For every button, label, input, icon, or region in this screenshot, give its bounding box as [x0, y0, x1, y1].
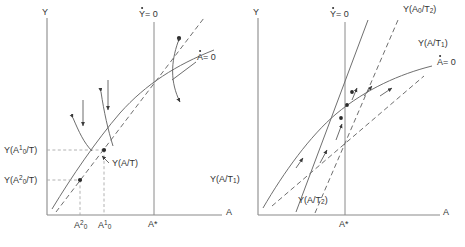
left-arc-2	[101, 92, 113, 146]
left-ydot-zero-label: Y= 0	[139, 10, 158, 19]
left-xtick-a02: A20	[74, 220, 87, 231]
right-arrow-traj-5	[364, 86, 372, 96]
right-arrow-traj-3	[336, 124, 342, 140]
right-adot-symbol: A	[437, 58, 443, 67]
left-adot-symbol: A	[197, 53, 203, 62]
right-arrow-traj-2	[320, 150, 327, 163]
right-y-a0-over-t2-label: Y(A0/T2)	[403, 5, 436, 15]
left-ydot-symbol: Y	[139, 10, 145, 19]
left-adot-label-pointer	[172, 62, 196, 80]
right-arrow-traj-1	[296, 158, 303, 168]
right-y-a-t1-l-base: Y(A/T	[210, 174, 233, 184]
left-adot-zero-label: A= 0	[197, 53, 216, 62]
left-y-a-over-t-label: Y(A/T)	[112, 159, 138, 168]
left-xtick-a01: A10	[98, 220, 111, 231]
left-point-upper	[177, 36, 181, 40]
right-y-a-t1-base: Y(A/T	[418, 38, 441, 48]
right-point-lower	[339, 116, 343, 120]
left-xtick-astar: A*	[148, 220, 158, 229]
right-ydot-symbol: Y	[330, 10, 336, 19]
left-ydot-zero-text: = 0	[145, 9, 158, 19]
right-y-a-t2-close: )	[325, 195, 328, 205]
right-y-a-t1-l-close: )	[237, 174, 240, 184]
right-x-axis-label: A	[443, 208, 449, 217]
right-ydot-zero-text: = 0	[336, 9, 349, 19]
left-ytick-1: Y(A10/T)	[4, 145, 37, 156]
left-y-axis-label: Y	[42, 8, 48, 17]
left-ytick-1-base: Y(A	[4, 145, 19, 155]
left-arc-1	[73, 118, 92, 151]
right-ydot-zero-label: Y= 0	[330, 10, 349, 19]
right-xtick-astar: A*	[339, 220, 349, 229]
figure-canvas: Y A Y= 0 A= 0 Y(A/T) Y(A10/T) Y(A20/T) A…	[0, 0, 465, 247]
left-x-axis-label: A	[226, 208, 232, 217]
left-xtick-a01-sub: 0	[108, 223, 112, 230]
right-arrow-traj-4	[352, 88, 357, 100]
right-y-axis-label: Y	[253, 8, 259, 17]
right-panel-group	[258, 18, 440, 215]
left-y-a-over-t-dashed	[56, 18, 204, 212]
right-y-a-over-t1-solid	[296, 20, 368, 212]
right-y-a0-t2-base: Y(A	[403, 4, 418, 14]
left-point-a01	[102, 148, 106, 152]
right-y-a-over-t1-label: Y(A/T1)	[418, 39, 448, 49]
right-y-a-over-t1-left-label: Y(A/T1)	[210, 175, 240, 185]
phase-diagram-svg	[0, 0, 465, 247]
left-arc-double	[173, 42, 180, 102]
left-xtick-a02-sub: 0	[84, 223, 88, 230]
right-point-eq	[345, 103, 349, 107]
left-panel-group	[47, 18, 222, 215]
right-y-a-t1-close: )	[445, 38, 448, 48]
right-y-a0-t2-close: )	[433, 4, 436, 14]
left-ytick-2: Y(A20/T)	[4, 175, 37, 186]
right-adot-zero-text: = 0	[443, 57, 456, 67]
left-ytick-1-tail: /T)	[26, 145, 37, 155]
right-y-a0-t2-tail: /T	[422, 4, 430, 14]
left-ytick-2-tail: /T)	[26, 175, 37, 185]
right-arrow-traj-6	[380, 88, 392, 96]
right-y-a0-over-t2-dashed	[315, 20, 398, 213]
right-y-a-t2-base: Y(A/T	[298, 195, 321, 205]
right-y-a-over-t2-label: Y(A/T2)	[298, 196, 328, 206]
left-point-a02	[78, 178, 82, 182]
left-adot-zero-text: = 0	[203, 52, 216, 62]
right-y-a-over-t1-dashed	[272, 76, 424, 206]
left-ytick-2-base: Y(A	[4, 175, 19, 185]
left-yat-label-pointer	[102, 156, 109, 163]
right-adot-zero-label: A= 0	[437, 58, 456, 67]
right-point-upper	[350, 90, 354, 94]
